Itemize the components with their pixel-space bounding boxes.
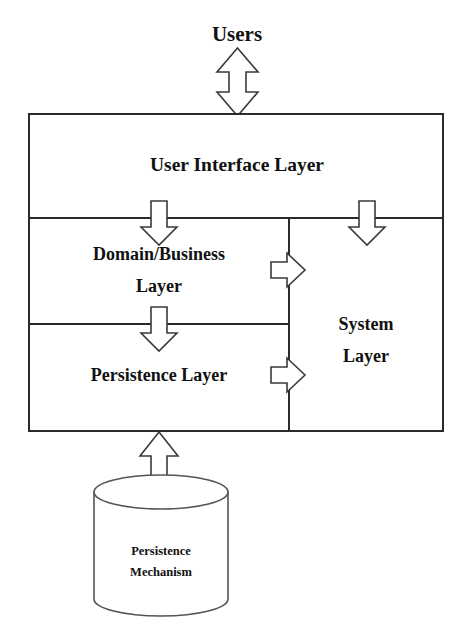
users-label: Users xyxy=(212,22,262,46)
architecture-diagram: Users User Interface Layer Domain/Busine… xyxy=(0,0,461,637)
system-layer-label-line2: Layer xyxy=(343,346,389,366)
diagram-canvas: Users User Interface Layer Domain/Busine… xyxy=(0,0,461,637)
persistence-mechanism-cylinder-top xyxy=(94,475,228,509)
ui-layer-label: User Interface Layer xyxy=(150,154,324,175)
persistence-mechanism-label-line1: Persistence xyxy=(131,544,191,558)
domain-layer-label-line2: Layer xyxy=(136,276,182,296)
persistence-layer-label: Persistence Layer xyxy=(91,365,227,385)
persistence-mechanism-label-line2: Mechanism xyxy=(130,565,192,579)
system-layer-label-line1: System xyxy=(339,314,394,334)
users-to-ui-bidirectional-arrow-icon xyxy=(217,48,258,116)
domain-layer-label-line1: Domain/Business xyxy=(93,244,225,264)
